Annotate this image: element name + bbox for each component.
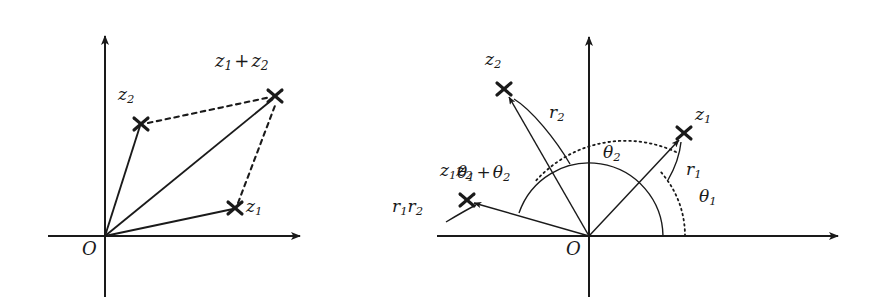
right-marker-z1z2 xyxy=(460,194,474,206)
label-theta2-base: θ xyxy=(603,142,613,162)
label-z2-right: z2 xyxy=(485,51,501,71)
label-r1r2-first-base: r xyxy=(392,196,400,216)
left-marker-z2 xyxy=(134,118,148,130)
label-theta2: θ2 xyxy=(603,144,621,164)
left-dashed-z2-to-sum xyxy=(148,97,271,123)
label-z2-right-subscript: 2 xyxy=(494,57,501,71)
label-z1-right-subscript: 1 xyxy=(704,112,711,126)
label-sum-second-subscript: 2 xyxy=(261,59,269,73)
label-theta1-base: θ xyxy=(699,186,709,206)
label-r2-subscript: 2 xyxy=(557,110,564,124)
label-z1-plus-z2: z1+z2 xyxy=(215,52,269,73)
label-z1-left-base: z xyxy=(246,196,255,216)
left-marker-z1 xyxy=(228,202,242,214)
label-z1-right-base: z xyxy=(695,104,704,124)
label-r1r2: r1r2 xyxy=(392,198,423,218)
label-z2-left-base: z xyxy=(118,84,127,104)
right-vector-to-z1z2 xyxy=(474,203,589,236)
label-theta-sum-second-base: θ xyxy=(493,162,503,182)
left-vector-to-z2 xyxy=(105,126,140,236)
label-theta-sum-first-base: θ xyxy=(457,162,467,182)
label-r2-base: r xyxy=(549,102,557,122)
label-r1r2-second-base: r xyxy=(408,196,416,216)
label-theta1: θ1 xyxy=(699,188,717,208)
label-theta1-plus-theta2: θ1+θ2 xyxy=(457,164,510,184)
label-theta-sum-second-subscript: 2 xyxy=(503,170,510,184)
label-theta2-subscript: 2 xyxy=(613,150,620,164)
right-marker-z2 xyxy=(497,83,511,95)
label-r1r2-second-subscript: 2 xyxy=(416,204,423,218)
left-vector-to-z1 xyxy=(105,209,233,236)
complex-number-figure: O z1 z2 z1+z2 O z1 z2 z1z2 r1 r2 r1r2 θ1… xyxy=(0,0,872,307)
label-z1-right: z1 xyxy=(695,106,711,126)
label-sum-second-base: z xyxy=(251,50,260,71)
label-r1r2-first-subscript: 1 xyxy=(400,204,407,218)
label-z2-right-base: z xyxy=(485,49,494,69)
label-z2-left-subscript: 2 xyxy=(127,92,134,106)
label-r1-subscript: 1 xyxy=(694,167,701,181)
plus-operator-icon: + xyxy=(232,50,251,71)
right-arc-theta1-plus-theta2 xyxy=(519,163,663,236)
label-z1z2-first-base: z xyxy=(440,160,449,180)
right-marker-z1 xyxy=(677,127,691,139)
label-z2-left: z2 xyxy=(118,86,134,106)
label-z1-left-subscript: 1 xyxy=(255,204,262,218)
label-r2: r2 xyxy=(549,104,565,124)
label-r1: r1 xyxy=(686,161,702,181)
label-r1-base: r xyxy=(686,159,694,179)
plus-operator-icon-theta: + xyxy=(475,162,493,182)
right-leader-r1r2 xyxy=(446,205,476,222)
label-theta1-subscript: 1 xyxy=(709,194,716,208)
label-z1-left: z1 xyxy=(246,198,262,218)
label-theta-sum-first-subscript: 1 xyxy=(467,170,474,184)
right-leader-r1 xyxy=(668,142,681,180)
label-origin-right: O xyxy=(566,240,581,258)
label-origin-left: O xyxy=(82,240,97,258)
left-dashed-z1-to-sum xyxy=(238,103,276,203)
figure-canvas xyxy=(0,0,872,307)
left-marker-z1-plus-z2 xyxy=(268,90,282,102)
